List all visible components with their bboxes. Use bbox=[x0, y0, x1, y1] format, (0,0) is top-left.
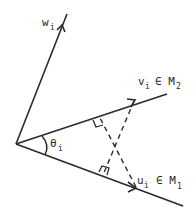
label-u-set: ∈ M bbox=[156, 174, 176, 187]
label-u-set-sub: 1 bbox=[177, 182, 182, 191]
label-v: v bbox=[138, 75, 145, 88]
angle-arc bbox=[42, 136, 47, 155]
label-w-sub: i bbox=[50, 23, 55, 32]
label-w: w bbox=[42, 16, 49, 29]
label-u: u bbox=[137, 174, 144, 187]
label-v-set: ∈ M bbox=[155, 75, 175, 88]
label-theta-sub: i bbox=[58, 144, 63, 153]
vector-v bbox=[16, 94, 167, 144]
right-angle-marker-lower bbox=[99, 166, 109, 175]
label-u-sub: i bbox=[144, 181, 149, 190]
vector-w bbox=[16, 14, 67, 144]
label-v-sub: i bbox=[145, 82, 150, 91]
projection-v-onto-u bbox=[103, 101, 134, 175]
label-theta: θ bbox=[50, 137, 57, 150]
vector-diagram: w i v i ∈ M 2 u i ∈ M 1 θ i bbox=[0, 0, 194, 217]
label-v-set-sub: 2 bbox=[176, 82, 181, 91]
